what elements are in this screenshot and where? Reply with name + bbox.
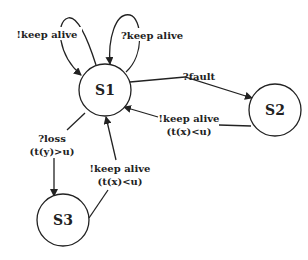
edge-label-s1-to-s2: ?fault (183, 71, 216, 82)
state-s1-label: S1 (95, 82, 115, 98)
edge-label-s3-to-s1-line2: (t(x)<u) (97, 176, 142, 187)
state-s3: S3 (37, 194, 89, 246)
edge-label-s2-to-s1-line2: (t(x)<u) (166, 126, 211, 137)
edge-s1-self-right (110, 15, 140, 72)
state-s2-label: S2 (265, 102, 285, 118)
edge-s2-to-s1-arrow (124, 107, 158, 117)
edge-s1-to-s3 (67, 113, 85, 130)
state-diagram: S1 S2 S3 !keep alive ?keep alive ?fault … (0, 0, 308, 260)
edge-label-s3-to-s1-line1: !keep alive (90, 163, 151, 174)
edge-s3-to-s1 (89, 190, 108, 218)
edge-s2-to-s1 (219, 125, 251, 126)
diagram-canvas: S1 S2 S3 !keep alive ?keep alive ?fault … (0, 0, 308, 260)
edge-label-s1-self-right: ?keep alive (121, 30, 183, 41)
edge-label-s1-to-s3-line2: (t(y)>u) (29, 146, 74, 157)
state-s2: S2 (249, 84, 301, 136)
edge-s3-to-s1-arrow (106, 117, 116, 160)
edge-s1-self-left (60, 18, 96, 75)
edge-label-s1-self-left: !keep alive (17, 29, 78, 40)
edge-label-s1-to-s3-line1: ?loss (38, 133, 66, 144)
state-s1: S1 (79, 64, 131, 116)
state-s3-label: S3 (53, 212, 73, 228)
edge-label-s2-to-s1-line1: !keep alive (159, 113, 220, 124)
